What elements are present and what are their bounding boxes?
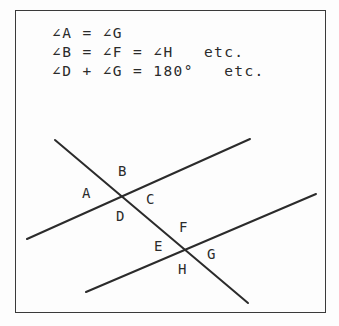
- geometry-diagram: [0, 0, 339, 326]
- angle-label-a: A: [82, 186, 90, 200]
- lines-group: [27, 139, 316, 303]
- transversal: [55, 140, 248, 303]
- figure-canvas: ∠A = ∠G ∠B = ∠F = ∠H etc. ∠D + ∠G = 180°…: [0, 0, 339, 326]
- angle-label-c: C: [146, 192, 154, 206]
- angle-label-g: G: [207, 247, 215, 261]
- parallel-line-upper: [27, 139, 250, 239]
- angle-label-f: F: [179, 220, 187, 234]
- angle-label-h: H: [178, 262, 186, 276]
- angle-label-b: B: [118, 164, 126, 178]
- angle-label-d: D: [116, 209, 124, 223]
- angle-label-e: E: [154, 239, 162, 253]
